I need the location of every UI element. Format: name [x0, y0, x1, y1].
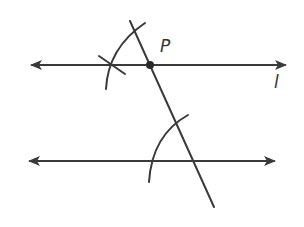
point-p [146, 61, 154, 69]
label-point-p: P [160, 36, 171, 56]
compass-arc-top [106, 23, 145, 89]
compass-arc-bottom [149, 115, 188, 182]
label-line-l: l [274, 72, 279, 92]
parallel-line-construction-diagram: P l [0, 0, 304, 227]
transversal-line [130, 21, 214, 207]
